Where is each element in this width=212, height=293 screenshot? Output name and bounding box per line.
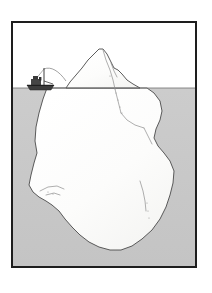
ship-wheelhouse [33,76,38,80]
ship-funnel [39,77,41,81]
iceberg-scene [13,23,195,266]
figure-frame [11,21,197,268]
figure-caption [11,270,197,290]
illustration-page [0,0,212,293]
